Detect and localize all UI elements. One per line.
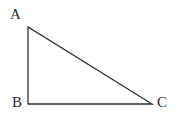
geometry-figure: A B C bbox=[0, 0, 182, 121]
vertex-label-c: C bbox=[157, 95, 167, 110]
figure-background bbox=[0, 0, 182, 121]
triangle-canvas bbox=[0, 0, 182, 121]
vertex-label-a: A bbox=[10, 7, 21, 22]
vertex-label-b: B bbox=[12, 95, 22, 110]
